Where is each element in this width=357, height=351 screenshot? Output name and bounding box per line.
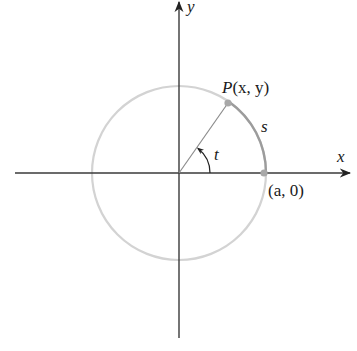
arc-s	[229, 102, 266, 173]
point-p-label: P(x, y)	[221, 78, 269, 97]
angle-arrow-icon	[198, 149, 210, 174]
point-p	[224, 99, 231, 106]
arc-label: s	[261, 117, 268, 136]
angle-label: t	[214, 145, 220, 164]
x-axis-label: x	[336, 147, 345, 166]
point-a-label: (a, 0)	[268, 181, 304, 200]
unit-circle-diagram: y x P(x, y) s t (a, 0)	[0, 0, 357, 351]
y-axis-label: y	[185, 0, 195, 16]
radius-line	[179, 103, 228, 173]
point-a	[260, 169, 267, 176]
